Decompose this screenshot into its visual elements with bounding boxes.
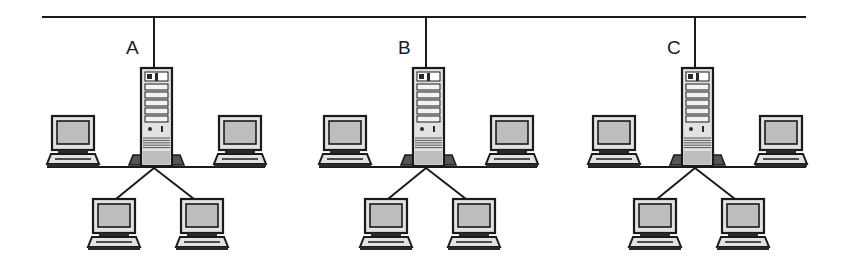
pc-a-bottom-left <box>88 199 140 250</box>
monitor-screen <box>370 204 402 227</box>
server-led <box>433 126 435 132</box>
server-led <box>702 126 704 132</box>
keyboard-edge <box>214 164 266 167</box>
server-switch <box>419 74 424 79</box>
server-switch <box>688 74 693 79</box>
keyboard-edge <box>88 247 140 250</box>
server-b <box>401 68 456 166</box>
keyboard-edge <box>360 247 412 250</box>
server-drive-bay <box>686 108 709 114</box>
monitor-screen <box>496 121 528 144</box>
keyboard-edge <box>47 164 99 167</box>
monitor-screen <box>598 121 630 144</box>
server-switch <box>696 73 699 81</box>
monitor-screen <box>639 204 671 227</box>
pc-b-bottom-right <box>448 199 500 250</box>
server-switch <box>155 73 158 81</box>
keyboard-edge <box>486 164 538 167</box>
pc-b-bottom-left <box>360 199 412 250</box>
server-drive-bay <box>686 100 709 106</box>
server-drive-bay <box>417 108 440 114</box>
server-power-button <box>689 127 693 131</box>
server-lower-panel <box>684 151 711 164</box>
server-drive-bay <box>145 100 168 106</box>
monitor-screen <box>458 204 490 227</box>
server-lower-panel <box>415 151 442 164</box>
pc-b-right <box>486 116 538 167</box>
server-switch <box>427 73 430 81</box>
pc-b-left <box>319 116 371 167</box>
pc-a-left <box>47 116 99 167</box>
keyboard-edge <box>629 247 681 250</box>
server-led <box>161 126 163 132</box>
keyboard-edge <box>755 164 807 167</box>
monitor-screen <box>57 121 89 144</box>
monitor-screen <box>329 121 361 144</box>
link-bottom-left <box>116 168 154 199</box>
monitor-screen <box>224 121 256 144</box>
server-drive-bay <box>145 92 168 98</box>
server-c <box>670 68 725 166</box>
lan-b: B <box>319 17 538 250</box>
network-diagram: ABC <box>0 0 852 273</box>
server-switch <box>147 74 152 79</box>
monitor-screen <box>727 204 759 227</box>
link-bottom-right <box>695 168 735 199</box>
pc-c-bottom-right <box>717 199 769 250</box>
link-bottom-left <box>657 168 695 199</box>
server-drive-bay <box>686 92 709 98</box>
keyboard-edge <box>588 164 640 167</box>
server-drive-bay <box>145 116 168 122</box>
pc-c-left <box>588 116 640 167</box>
link-bottom-left <box>388 168 426 199</box>
pc-c-bottom-left <box>629 199 681 250</box>
server-drive-bay <box>417 100 440 106</box>
keyboard-edge <box>717 247 769 250</box>
lan-c: C <box>588 17 807 250</box>
lan-a: A <box>47 17 266 250</box>
pc-c-right <box>755 116 807 167</box>
pc-a-right <box>214 116 266 167</box>
server-drive-bay <box>417 116 440 122</box>
network-label: A <box>126 37 139 58</box>
server-power-button <box>420 127 424 131</box>
server-drive-bay <box>145 108 168 114</box>
keyboard-edge <box>448 247 500 250</box>
server-drive-bay <box>417 92 440 98</box>
server-lower-panel <box>143 151 170 164</box>
link-bottom-right <box>154 168 194 199</box>
pc-a-bottom-right <box>176 199 228 250</box>
network-label: C <box>667 37 681 58</box>
server-drive-bay <box>145 84 168 90</box>
link-bottom-right <box>426 168 466 199</box>
server-drive-bay <box>417 84 440 90</box>
server-a <box>129 68 184 166</box>
monitor-screen <box>765 121 797 144</box>
monitor-screen <box>186 204 218 227</box>
keyboard-edge <box>176 247 228 250</box>
monitor-screen <box>98 204 130 227</box>
server-drive-bay <box>686 84 709 90</box>
server-power-button <box>148 127 152 131</box>
network-label: B <box>398 37 411 58</box>
server-drive-bay <box>686 116 709 122</box>
keyboard-edge <box>319 164 371 167</box>
